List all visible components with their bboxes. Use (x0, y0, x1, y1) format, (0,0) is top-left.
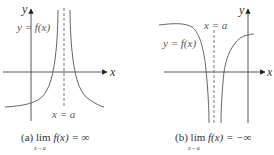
panel-b: y x = a y = f(x) x (b) lim f(x) = −∞ x→a (159, 3, 273, 151)
curve-label-a: y = f(x) (16, 21, 50, 34)
y-axis-label-b: y (238, 3, 245, 17)
curve-b-right (221, 34, 254, 123)
svg-text:x→a: x→a (33, 145, 46, 151)
caption-a: (a) lim f(x) = ∞ x→a (21, 131, 90, 151)
x-axis-label-a: x (109, 65, 116, 79)
svg-text:(a) lim f(x) = ∞: (a) lim f(x) = ∞ (21, 131, 90, 144)
svg-text:(b) lim f(x) = −∞: (b) lim f(x) = −∞ (175, 131, 252, 144)
caption-b: (b) lim f(x) = −∞ x→a (175, 131, 252, 151)
y-axis-label-a: y (21, 2, 28, 16)
figure: y y = f(x) x x = a (a) lim f(x) = ∞ x→a … (0, 0, 274, 155)
curve-label-b: y = f(x) (162, 37, 196, 50)
curve-a-right (70, 10, 104, 107)
asymptote-label-b: x = a (203, 19, 228, 31)
svg-text:x→a: x→a (187, 145, 200, 151)
asymptote-label-a: x = a (51, 108, 76, 120)
x-axis-label-b: x (266, 65, 273, 79)
panel-a: y y = f(x) x x = a (a) lim f(x) = ∞ x→a (3, 2, 116, 151)
